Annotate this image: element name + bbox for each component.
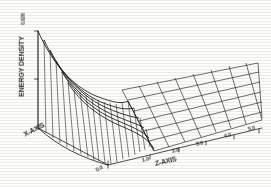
ridge-curve-sixth — [68, 83, 154, 149]
axis-frame — [35, 31, 263, 168]
energy-density-surface-figure: ENERGY DENSITY 0.026 X-AXIS Z-AXIS 0.0 1… — [0, 0, 271, 187]
ridge-curve-fifth — [62, 72, 149, 138]
y-axis-title: ENERGY DENSITY — [17, 36, 26, 97]
y-axis-top-value: 0.026 — [20, 13, 26, 25]
surface-ridge-curves — [38, 31, 154, 149]
z-axis-line — [108, 128, 262, 165]
surface-face-hatching — [38, 31, 150, 164]
surface-plot-canvas — [0, 0, 271, 187]
ridge-curve-second — [44, 40, 134, 109]
